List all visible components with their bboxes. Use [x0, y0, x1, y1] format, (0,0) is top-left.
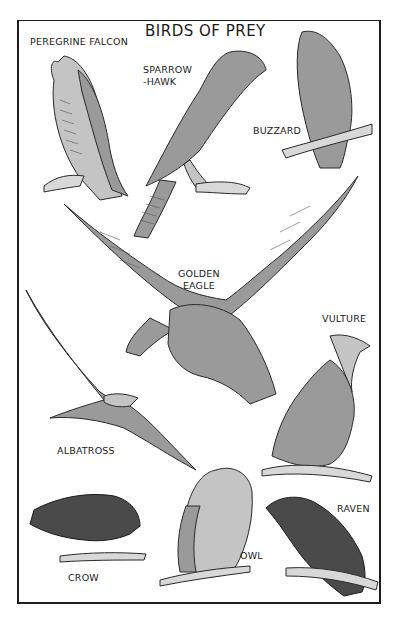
label-buzzard: BUZZARD	[253, 125, 301, 137]
label-albatross: ALBATROSS	[57, 445, 115, 457]
birds-illustration	[0, 0, 398, 624]
label-golden-eagle: GOLDEN EAGLE	[178, 268, 220, 292]
label-vulture: VULTURE	[322, 313, 366, 325]
label-raven: RAVEN	[337, 503, 370, 515]
owl-drawing	[160, 468, 252, 586]
crow-drawing	[30, 495, 146, 562]
label-peregrine-falcon: PEREGRINE FALCON	[30, 36, 128, 48]
vulture-drawing	[262, 335, 372, 482]
label-sparrowhawk: SPARROW -HAWK	[143, 64, 192, 88]
label-crow: CROW	[68, 572, 99, 584]
buzzard-drawing	[282, 31, 372, 168]
peregrine-falcon-drawing	[44, 56, 128, 200]
label-owl: OWL	[240, 550, 263, 562]
page-title: BIRDS OF PREY	[145, 22, 266, 40]
